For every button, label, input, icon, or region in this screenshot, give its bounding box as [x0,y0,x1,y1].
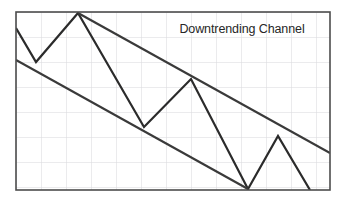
grid-lines [16,12,330,190]
chart-annotation-label: Downtrending Channel [174,20,310,38]
chart-figure: Downtrending Channel [0,0,342,198]
